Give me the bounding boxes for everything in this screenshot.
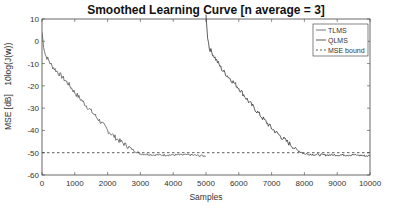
x-tick-label: 9000: [328, 179, 346, 188]
x-tick-label: 2000: [99, 179, 117, 188]
y-tick-label: -20: [27, 82, 39, 91]
y-tick-label: 10: [30, 15, 39, 24]
legend-label: MSE bound: [328, 47, 365, 54]
legend-label: QLMS: [328, 37, 348, 45]
learning-curve-chart: Smoothed Learning Curve [n average = 3] …: [0, 0, 402, 208]
legend: TLMS QLMS MSE bound: [313, 24, 368, 56]
x-tick-label: 4000: [164, 179, 182, 188]
y-tick-label: -60: [27, 171, 39, 180]
y-tick-label: -10: [27, 60, 39, 69]
x-tick-label: 7000: [263, 179, 281, 188]
x-tick-label: 10000: [359, 179, 382, 188]
y-tick-label: -50: [27, 149, 39, 158]
x-tick-label: 5000: [197, 179, 215, 188]
y-tick-label: -40: [27, 126, 39, 135]
y-axis-label: MSE [dB] 10log(J(w)): [3, 43, 13, 130]
x-axis-label: Samples: [189, 192, 222, 202]
x-tick-label: 0: [40, 179, 45, 188]
series-line-tlms: [42, 32, 206, 156]
x-tick-label: 6000: [230, 179, 248, 188]
x-tick-label: 1000: [66, 179, 84, 188]
x-tick-label: 8000: [296, 179, 314, 188]
y-axis-label-mse: MSE [dB]: [3, 94, 13, 130]
legend-label: TLMS: [328, 27, 347, 34]
x-tick-label: 3000: [132, 179, 150, 188]
y-axis-label-log: 10log(J(w)): [3, 43, 13, 86]
y-tick-label: 0: [35, 37, 40, 46]
y-tick-label: -30: [27, 104, 39, 113]
